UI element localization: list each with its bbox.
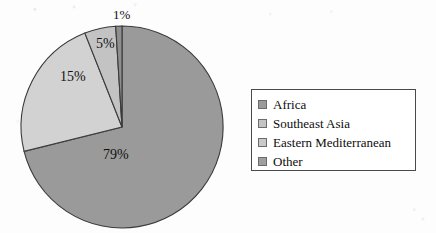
legend-swatch-icon-other: [258, 157, 267, 166]
pie-label-79: 79%: [103, 148, 129, 162]
legend-label-southeast-asia: Southeast Asia: [273, 117, 350, 130]
legend-label-eastern-mediterranean: Eastern Mediterranean: [273, 136, 391, 149]
legend-item-other[interactable]: Other: [258, 152, 415, 171]
pie-label-5: 5%: [96, 37, 115, 51]
legend-swatch-icon-southeast-asia: [258, 119, 267, 128]
legend-swatch-icon-africa: [258, 100, 267, 109]
pie-chart-figure: 79% 15% 5% 1% Africa Southeast Asia East…: [0, 0, 436, 233]
pie-label-15: 15%: [60, 70, 86, 84]
pie-slices: [21, 26, 223, 228]
pie-label-1: 1%: [113, 8, 130, 21]
legend: Africa Southeast Asia Eastern Mediterran…: [251, 89, 416, 171]
legend-item-eastern-mediterranean[interactable]: Eastern Mediterranean: [258, 133, 415, 152]
legend-item-southeast-asia[interactable]: Southeast Asia: [258, 114, 415, 133]
legend-swatch-icon-eastern-mediterranean: [258, 138, 267, 147]
legend-item-africa[interactable]: Africa: [258, 95, 415, 114]
legend-label-africa: Africa: [273, 98, 306, 111]
legend-label-other: Other: [273, 155, 303, 168]
